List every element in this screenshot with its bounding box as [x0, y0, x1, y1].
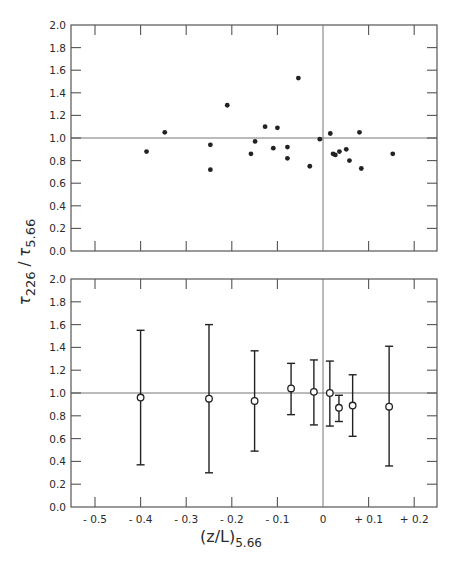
y-tick-label: 1.4: [49, 341, 66, 353]
data-point: [328, 131, 333, 136]
y-tick-label: 1.0: [49, 132, 66, 144]
mean-marker: [206, 395, 213, 402]
data-point: [263, 124, 268, 129]
ylabel-subscript-566: 5.66: [23, 219, 38, 248]
mean-marker: [336, 405, 343, 412]
mean-marker: [288, 385, 295, 392]
x-tick-label: - 0.3: [174, 513, 198, 525]
y-tick-label: 1.0: [49, 387, 66, 399]
x-tick-label: - 0.1: [265, 513, 289, 525]
errorbar-point: [335, 395, 343, 421]
data-point: [249, 151, 254, 156]
data-point: [317, 137, 322, 142]
errorbar-point: [251, 351, 259, 451]
mean-marker: [327, 390, 334, 397]
mean-marker: [251, 398, 258, 405]
data-point: [347, 158, 352, 163]
figure: 0.00.20.40.60.81.01.21.41.61.82.0 0.00.2…: [0, 0, 459, 562]
y-tick-label: 0.0: [49, 245, 66, 257]
errorbar-point: [287, 363, 295, 414]
data-point: [344, 147, 349, 152]
data-point: [144, 149, 149, 154]
data-point: [271, 146, 276, 151]
errorbar-point: [310, 360, 318, 425]
y-tick-label: 1.4: [49, 87, 66, 99]
mean-marker: [137, 394, 144, 401]
y-tick-label: 0.8: [49, 155, 66, 167]
y-tick-label: 2.0: [49, 19, 66, 31]
svg-text:τ226 / τ5.66: τ226 / τ5.66: [16, 219, 38, 305]
x-tick-label: + 0.2: [400, 513, 429, 525]
data-point: [225, 103, 230, 108]
ylabel-slash: /: [16, 257, 34, 272]
ylabel-subscript-226: 226: [23, 271, 38, 296]
errorbar-point: [326, 361, 334, 426]
errorbar-point: [349, 375, 357, 437]
xlabel-subscript: 5.66: [235, 536, 262, 550]
y-tick-label: 0.8: [49, 410, 66, 422]
data-point: [359, 166, 364, 171]
data-point: [275, 125, 280, 130]
y-tick-label: 0.4: [49, 455, 66, 467]
x-tick-label: - 0.2: [220, 513, 244, 525]
top-scatter-panel: 0.00.20.40.60.81.01.21.41.61.82.0: [49, 19, 437, 257]
data-point: [296, 76, 301, 81]
y-tick-label: 1.2: [49, 364, 66, 376]
y-tick-label: 0.0: [49, 501, 66, 513]
xlabel-main: (z/L): [200, 527, 235, 546]
y-tick-label: 0.6: [49, 177, 66, 189]
data-point: [307, 164, 312, 169]
y-tick-label: 1.8: [49, 296, 66, 308]
data-point: [333, 153, 338, 158]
data-point: [285, 145, 290, 150]
mean-marker: [349, 402, 356, 409]
y-tick-label: 1.6: [49, 319, 66, 331]
y-axis-label: τ226 / τ5.66: [16, 219, 38, 305]
x-tick-label: + 0.1: [354, 513, 383, 525]
svg-text:(z/L)5.66: (z/L)5.66: [200, 527, 262, 550]
data-point: [208, 142, 213, 147]
y-tick-label: 2.0: [49, 273, 66, 285]
mean-marker: [311, 389, 318, 396]
y-tick-label: 0.2: [49, 478, 66, 490]
errorbar-point: [137, 330, 145, 465]
y-tick-label: 0.2: [49, 222, 66, 234]
y-tick-label: 1.2: [49, 109, 66, 121]
data-point: [357, 130, 362, 135]
bottom-errorbar-panel: 0.00.20.40.60.81.01.21.41.61.82.0- 0.5- …: [49, 273, 437, 525]
data-point: [208, 167, 213, 172]
x-axis-label: (z/L)5.66: [200, 527, 262, 550]
y-tick-label: 1.6: [49, 64, 66, 76]
data-point: [337, 149, 342, 154]
y-tick-label: 0.6: [49, 433, 66, 445]
y-tick-label: 1.8: [49, 42, 66, 54]
x-tick-label: - 0.5: [83, 513, 107, 525]
x-tick-label: - 0.4: [129, 513, 153, 525]
data-point: [285, 156, 290, 161]
data-point: [390, 151, 395, 156]
errorbar-point: [385, 346, 393, 466]
errorbar-point: [205, 325, 213, 473]
mean-marker: [386, 403, 393, 410]
x-tick-label: 0: [320, 513, 327, 525]
y-tick-label: 0.4: [49, 200, 66, 212]
data-point: [253, 139, 258, 144]
chart-canvas: 0.00.20.40.60.81.01.21.41.61.82.0 0.00.2…: [0, 0, 459, 562]
data-point: [162, 130, 167, 135]
